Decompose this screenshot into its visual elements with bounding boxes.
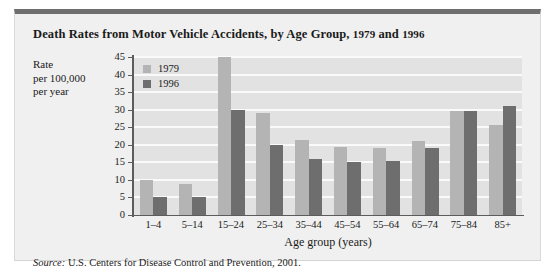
bar-1979-25-34 (256, 113, 270, 215)
bar-1996-45-54 (347, 162, 361, 215)
bar-1996-55-64 (386, 161, 400, 215)
bar-1996-35-44 (309, 159, 323, 215)
plot-area (134, 57, 522, 215)
y-axis-tick-mark (128, 75, 132, 76)
y-axis-tick-label: 45 (101, 52, 125, 62)
source-text: U.S. Centers for Disease Control and Pre… (68, 257, 301, 268)
y-axis-tick-label: 20 (101, 140, 125, 150)
legend-item-1996: 1996 (143, 77, 179, 90)
legend: 19791996 (143, 62, 179, 92)
y-axis-tick-mark (128, 127, 132, 128)
y-axis-tick-mark (128, 215, 132, 216)
y-axis-tick-label: 5 (101, 192, 125, 202)
bar-1996-5-14 (192, 197, 206, 215)
x-axis-line (132, 215, 524, 216)
gridline (134, 109, 522, 111)
x-axis-tick-label: 1–4 (134, 219, 173, 230)
gridline (134, 74, 522, 76)
legend-label-1979: 1979 (158, 63, 179, 74)
bar-1979-65-74 (412, 141, 426, 215)
x-axis-title: Age group (years) (134, 235, 522, 250)
x-axis-tick-label: 85+ (483, 219, 522, 230)
x-axis-tick-label: 5–14 (173, 219, 212, 230)
x-axis-tick-label: 15–24 (212, 219, 251, 230)
x-axis-tick-label: 25–34 (250, 219, 289, 230)
x-axis-tick-label: 75–84 (444, 219, 483, 230)
y-axis-tick-mark (128, 197, 132, 198)
y-axis-tick-label: 15 (101, 157, 125, 167)
x-axis-tick-label: 65–74 (406, 219, 445, 230)
y-axis-tick-label: 10 (101, 175, 125, 185)
bar-1979-55-64 (373, 148, 387, 215)
y-axis-tick-mark (128, 92, 132, 93)
figure-title-year-1979: 1979 (353, 28, 375, 40)
x-axis-tick-label: 45–54 (328, 219, 367, 230)
source-label: Source: (33, 257, 65, 268)
legend-label-1996: 1996 (158, 78, 179, 89)
bar-1996-25-34 (270, 145, 284, 215)
gridline (134, 56, 522, 58)
y-axis-tick-mark (128, 145, 132, 146)
y-axis-tick-mark (128, 57, 132, 58)
bar-1979-75-84 (450, 111, 464, 215)
x-axis-tick-label: 55–64 (367, 219, 406, 230)
figure-title-year-1996: 1996 (402, 28, 424, 40)
bar-1979-85- (489, 125, 503, 215)
bar-1979-1-4 (140, 180, 154, 215)
bar-1996-85- (503, 106, 517, 215)
y-axis-tick-mark (128, 110, 132, 111)
bar-1979-5-14 (179, 184, 193, 215)
bar-1996-15-24 (231, 110, 245, 215)
x-axis-tick-label: 35–44 (289, 219, 328, 230)
y-axis-tick-mark (128, 180, 132, 181)
legend-swatch-1996 (143, 80, 151, 88)
bar-1996-75-84 (464, 111, 478, 215)
figure-title-main: Death Rates from Motor Vehicle Accidents… (33, 27, 350, 41)
bar-1979-35-44 (295, 140, 309, 215)
bar-1996-1-4 (153, 197, 167, 215)
bar-1996-65-74 (425, 148, 439, 215)
figure-card: Death Rates from Motor Vehicle Accidents… (14, 9, 541, 261)
figure-title-conjunction: and (378, 27, 398, 41)
source-note: Source: U.S. Centers for Disease Control… (33, 257, 301, 268)
y-axis-tick-mark (128, 162, 132, 163)
y-axis-tick-label: 35 (101, 87, 125, 97)
y-axis-tick-label: 30 (101, 105, 125, 115)
figure-title: Death Rates from Motor Vehicle Accidents… (33, 27, 425, 42)
bar-1979-15-24 (218, 57, 232, 215)
y-axis-tick-label: 25 (101, 122, 125, 132)
bar-1979-45-54 (334, 147, 348, 215)
gridline (134, 91, 522, 93)
legend-item-1979: 1979 (143, 62, 179, 75)
y-axis-tick-label: 40 (101, 70, 125, 80)
y-axis-tick-label: 0 (101, 210, 125, 220)
legend-swatch-1979 (143, 65, 151, 73)
y-axis-line (132, 55, 134, 217)
